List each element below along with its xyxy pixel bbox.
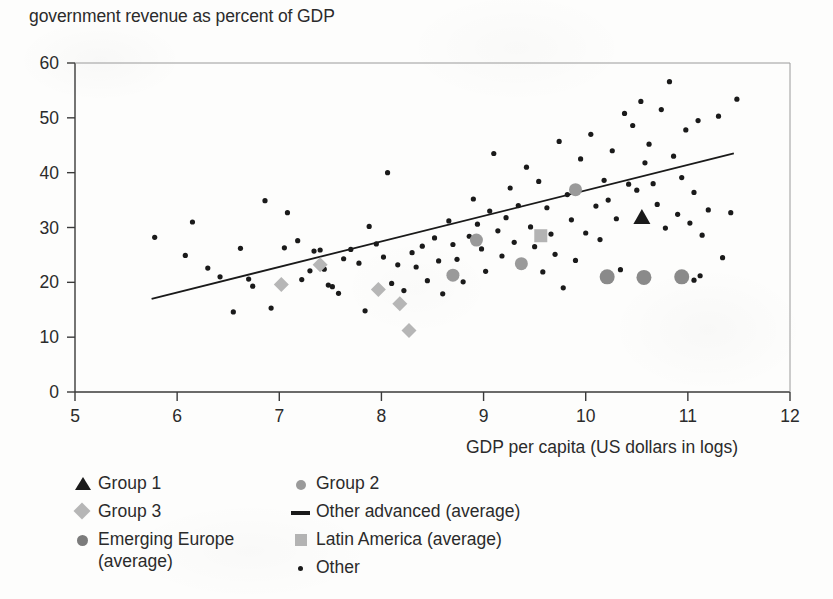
legend-marker-glyph: [75, 477, 91, 490]
point-other: [495, 228, 500, 233]
point-other: [348, 247, 353, 252]
point-group-3: [274, 277, 289, 292]
legend-item[interactable]: Other: [290, 556, 630, 581]
point-other: [552, 252, 557, 257]
point-other: [446, 218, 451, 223]
point-other: [691, 278, 696, 283]
point-other: [614, 216, 619, 221]
point-other: [569, 217, 574, 222]
point-other: [205, 265, 210, 270]
point-other: [356, 261, 361, 266]
point-other: [508, 185, 513, 190]
point-emerging-europe-average: [600, 269, 615, 284]
square-gray-icon: [290, 528, 312, 550]
legend-marker-glyph: [74, 503, 91, 520]
legend-marker-glyph: [77, 535, 88, 546]
x-axis-title: GDP per capita (US dollars in logs): [466, 437, 738, 458]
point-other: [318, 247, 323, 252]
point-other: [651, 181, 656, 186]
point-other: [461, 279, 466, 284]
legend-item[interactable]: Group 3: [72, 500, 282, 525]
point-other: [395, 262, 400, 267]
point-other: [385, 170, 390, 175]
point-other: [528, 224, 533, 229]
legend-item[interactable]: Other advanced (average): [290, 500, 630, 525]
point-other: [512, 240, 517, 245]
dot-black-icon: [290, 556, 312, 578]
x-tick-label: 12: [780, 406, 799, 426]
point-other: [389, 281, 394, 286]
legend-item[interactable]: Latin America (average): [290, 528, 630, 553]
point-other: [190, 219, 195, 224]
point-other: [698, 273, 703, 278]
point-other: [573, 258, 578, 263]
chart-page: government revenue as percent of GDP 010…: [0, 0, 833, 599]
legend-column-left: Group 1Group 3Emerging Europe (average): [72, 472, 282, 575]
point-other: [557, 139, 562, 144]
point-other: [561, 285, 566, 290]
y-tick-label: 30: [40, 218, 60, 238]
point-other: [695, 118, 700, 123]
point-other: [231, 309, 236, 314]
point-other: [691, 190, 696, 195]
point-other: [183, 253, 188, 258]
point-group-3: [392, 296, 407, 311]
legend-item-label: Other: [316, 556, 360, 578]
y-tick-label: 10: [40, 327, 60, 347]
legend-item-label: Group 1: [98, 472, 161, 494]
point-group-1: [633, 209, 650, 224]
legend-item[interactable]: Group 2: [290, 472, 630, 497]
point-other: [683, 127, 688, 132]
x-tick-label: 8: [377, 406, 387, 426]
chart-legend: Group 1Group 3Emerging Europe (average) …: [72, 472, 632, 582]
point-other: [487, 208, 492, 213]
point-other: [238, 246, 243, 251]
point-other: [362, 308, 367, 313]
axis-group: [67, 63, 790, 401]
point-other: [734, 97, 739, 102]
point-group-2: [569, 183, 582, 196]
legend-item-label: Group 3: [98, 500, 161, 522]
legend-marker-glyph: [296, 480, 306, 490]
diamond-gray-icon: [72, 500, 94, 522]
point-other: [246, 276, 251, 281]
point-other: [610, 148, 615, 153]
point-other: [503, 215, 508, 220]
point-other: [262, 198, 267, 203]
x-tick-label: 7: [274, 406, 284, 426]
point-other: [671, 154, 676, 159]
point-group-2: [470, 234, 483, 247]
y-tick-label: 50: [40, 108, 60, 128]
point-other: [728, 210, 733, 215]
point-other: [440, 291, 445, 296]
point-other: [597, 237, 602, 242]
point-other: [578, 156, 583, 161]
point-other: [622, 111, 627, 116]
point-other: [425, 278, 430, 283]
triangle-black-icon: [72, 472, 94, 494]
point-other: [401, 288, 406, 293]
legend-item[interactable]: Emerging Europe (average): [72, 528, 282, 572]
point-other: [499, 253, 504, 258]
point-other: [341, 256, 346, 261]
point-other: [675, 212, 680, 217]
point-group-2: [515, 257, 528, 270]
point-other: [475, 222, 480, 227]
point-other: [655, 202, 660, 207]
point-other: [544, 205, 549, 210]
point-other: [630, 123, 635, 128]
point-other: [420, 244, 425, 249]
y-tick-label: 40: [40, 163, 60, 183]
legend-column-right: Group 2Other advanced (average)Latin Ame…: [290, 472, 630, 584]
point-other: [471, 196, 476, 201]
point-other: [432, 235, 437, 240]
legend-item[interactable]: Group 1: [72, 472, 282, 497]
point-other: [483, 269, 488, 274]
point-other: [217, 274, 222, 279]
point-group-3: [402, 323, 417, 338]
point-other: [583, 230, 588, 235]
legend-marker-glyph: [295, 534, 307, 546]
point-other: [706, 207, 711, 212]
x-tick-label: 5: [70, 406, 80, 426]
data-points-group: [152, 79, 739, 338]
